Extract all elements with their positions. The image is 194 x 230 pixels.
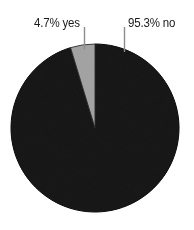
pie-chart-graphic: [0, 0, 194, 230]
pie-label-no: 95.3% no: [128, 17, 175, 30]
pie-chart-figure: 4.7% yes 95.3% no: [0, 0, 194, 230]
pie-slice-no: [11, 41, 183, 215]
pie-label-yes: 4.7% yes: [34, 17, 80, 30]
